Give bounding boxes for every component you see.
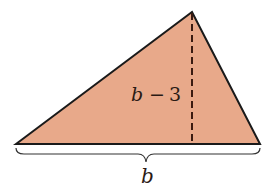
triangle-diagram: b − 3 b (0, 0, 273, 190)
base-label: b (141, 164, 154, 188)
base-brace (16, 148, 260, 162)
triangle (16, 12, 260, 144)
triangle-figure: b − 3 b (0, 0, 273, 190)
height-label-num: 3 (169, 83, 181, 105)
height-label-op: − (149, 83, 165, 105)
height-label-var: b (131, 83, 143, 105)
